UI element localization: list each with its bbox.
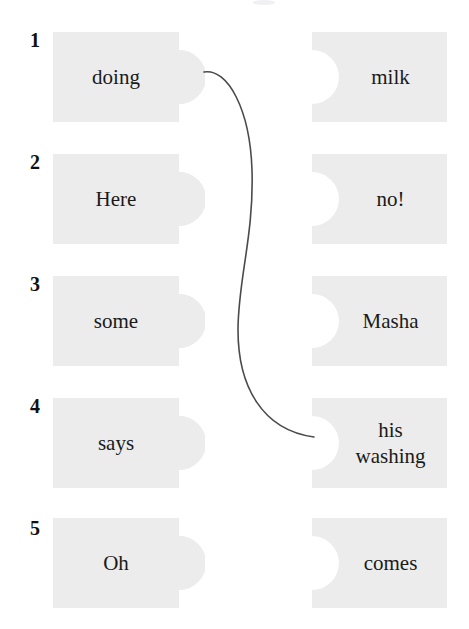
puzzle-piece-left-2[interactable]: Here <box>53 154 205 244</box>
puzzle-piece-left-shape <box>53 32 205 122</box>
scan-artifact <box>253 0 275 5</box>
puzzle-piece-right-shape <box>312 154 447 244</box>
connector-line-1[interactable] <box>204 72 314 437</box>
row-number-2: 2 <box>14 152 40 172</box>
puzzle-piece-left-5[interactable]: Oh <box>53 518 205 608</box>
puzzle-piece-left-shape <box>53 518 205 608</box>
puzzle-piece-right-shape <box>312 276 447 366</box>
row-number-5: 5 <box>14 518 40 538</box>
puzzle-piece-right-3[interactable]: Masha <box>312 276 447 366</box>
puzzle-piece-left-1[interactable]: doing <box>53 32 205 122</box>
row-number-1: 1 <box>14 30 40 50</box>
puzzle-piece-left-4[interactable]: says <box>53 398 205 488</box>
puzzle-piece-right-shape <box>312 32 447 122</box>
puzzle-piece-left-3[interactable]: some <box>53 276 205 366</box>
puzzle-piece-left-shape <box>53 154 205 244</box>
puzzle-piece-left-shape <box>53 398 205 488</box>
puzzle-piece-right-2[interactable]: no! <box>312 154 447 244</box>
puzzle-piece-right-shape <box>312 518 447 608</box>
puzzle-piece-right-1[interactable]: milk <box>312 32 447 122</box>
puzzle-piece-left-shape <box>53 276 205 366</box>
puzzle-piece-right-4[interactable]: his washing <box>312 398 447 488</box>
row-number-3: 3 <box>14 274 40 294</box>
puzzle-piece-right-5[interactable]: comes <box>312 518 447 608</box>
matching-exercise-board: 1 doing milk 2 Here no! 3 some <box>0 0 469 629</box>
row-number-4: 4 <box>14 396 40 416</box>
puzzle-piece-right-shape <box>312 398 447 488</box>
